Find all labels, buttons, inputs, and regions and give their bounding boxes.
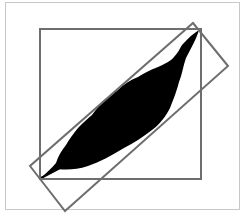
leaf-bounding-box-diagram bbox=[0, 0, 246, 223]
leaf-shape bbox=[41, 30, 199, 178]
